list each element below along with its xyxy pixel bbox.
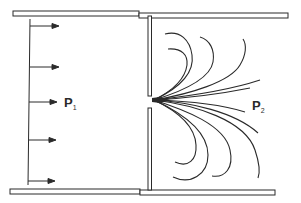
arrow-icon [30,65,59,70]
streamline-lower-1 [154,100,196,164]
partition-wall-upper [148,16,152,96]
streamline-upper-2 [154,49,187,100]
bottom-plate-right [140,190,275,195]
upstream-pressure-subscript: 1 [73,104,77,111]
streamline-lower-3 [154,100,231,176]
upstream-pressure-label: P1 [64,96,77,111]
partition-wall-lower [148,108,152,190]
upstream-arrows [28,24,59,184]
arrow-icon [28,179,55,184]
downstream-pressure-subscript: 2 [261,107,265,114]
streamlines [154,33,260,180]
bottom-plate [10,189,140,194]
downstream-pressure-symbol: P [252,98,261,113]
upstream-pressure-symbol: P [64,95,73,110]
top-plate-right [139,13,288,18]
streamline-lower-2 [154,100,208,180]
top-plate [13,11,139,16]
downstream-pressure-label: P2 [252,99,265,114]
arrow-icon [30,24,59,29]
arrow-icon [29,138,56,143]
streamline-upper-3 [154,37,213,100]
arrow-icon [29,100,57,105]
